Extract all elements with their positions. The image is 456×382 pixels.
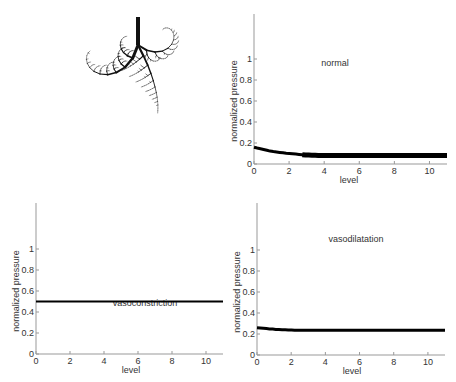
x-tick-label: 4	[322, 166, 327, 176]
y-tick-label: 0.8	[21, 265, 34, 275]
x-tick-label: 4	[101, 356, 106, 366]
y-tick-label: 0.6	[21, 286, 34, 296]
series-line	[257, 328, 445, 331]
x-tick-label: 8	[391, 357, 396, 367]
plot-area: 00.20.40.60.810246810levelnormalized pre…	[229, 14, 447, 185]
y-axis-label: normalized pressure	[11, 250, 21, 332]
plot-area: 00.20.40.60.810246810levelnormalized pre…	[11, 203, 223, 375]
y-tick-label: 0.4	[239, 117, 252, 127]
x-tick-label: 0	[251, 166, 256, 176]
chart-vasodilatation: 00.20.40.60.810246810levelnormalized pre…	[228, 190, 456, 382]
x-tick-label: 8	[392, 166, 397, 176]
y-tick-label: 0.4	[21, 307, 34, 317]
x-axis-label: level	[340, 175, 359, 185]
x-tick-label: 0	[33, 356, 38, 366]
tree-branches	[86, 17, 178, 113]
x-tick-label: 2	[287, 166, 292, 176]
x-axis-label: level	[122, 365, 141, 375]
y-tick-label: 0.4	[242, 308, 255, 318]
x-tick-label: 0	[254, 357, 259, 367]
y-tick-label: 0.6	[239, 96, 252, 106]
y-axis-label: normalized pressure	[232, 251, 242, 333]
y-tick-label: 0.2	[239, 138, 252, 148]
y-axis-label: normalized pressure	[229, 60, 239, 142]
x-tick-label: 4	[323, 357, 328, 367]
x-tick-label: 2	[67, 356, 72, 366]
x-tick-label: 10	[423, 357, 433, 367]
y-tick-label: 0.2	[242, 329, 255, 339]
chart-vasoconstriction: 00.20.40.60.810246810levelnormalized pre…	[0, 190, 230, 382]
chart-annotation: vasodilatation	[328, 234, 383, 244]
vascular-tree-diagram	[40, 0, 230, 190]
chart-annotation: vasoconstriction	[113, 298, 178, 308]
y-tick-label: 0.6	[242, 287, 255, 297]
plot-area: 00.20.40.60.810246810levelnormalized pre…	[232, 203, 445, 376]
x-axis-label: level	[343, 366, 362, 376]
x-tick-label: 10	[201, 356, 211, 366]
chart-normal: 00.20.40.60.810246810levelnormalized pre…	[225, 0, 456, 190]
x-tick-label: 2	[289, 357, 294, 367]
y-tick-label: 0.2	[21, 328, 34, 338]
x-tick-label: 8	[169, 356, 174, 366]
chart-annotation: normal	[321, 58, 349, 68]
y-tick-label: 1	[250, 245, 255, 255]
y-tick-label: 0.8	[242, 266, 255, 276]
y-tick-label: 0.8	[239, 75, 252, 85]
y-tick-label: 1	[247, 54, 252, 64]
y-tick-label: 1	[29, 244, 34, 254]
x-tick-label: 10	[424, 166, 434, 176]
